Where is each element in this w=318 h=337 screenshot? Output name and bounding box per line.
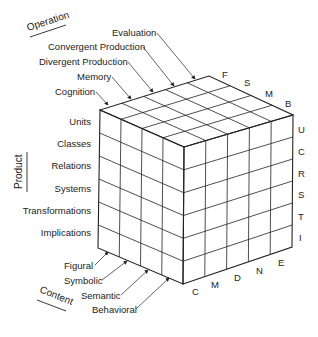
product-label-systems: Systems — [55, 183, 92, 194]
code-i: I — [299, 232, 302, 243]
operation-axis-title: Operation — [25, 9, 70, 33]
arrow-memory — [112, 77, 131, 99]
operation-axis: Operation — [25, 9, 70, 37]
code-r: R — [298, 168, 305, 179]
code-f: F — [222, 69, 228, 80]
content-label-figural: Figural — [64, 260, 93, 271]
code-d-operation: D — [234, 272, 241, 283]
top-edge-codes: F S M B — [222, 69, 291, 109]
content-label-semantic: Semantic — [81, 290, 121, 301]
product-label-units: Units — [69, 116, 91, 127]
arrow-behavioral — [136, 278, 169, 309]
operation-label-evaluation: Evaluation — [112, 27, 156, 38]
code-c-operation: C — [192, 286, 199, 297]
code-e-operation: E — [278, 257, 284, 268]
bottom-edge-codes: C M D N E — [192, 257, 284, 297]
operation-labels: Evaluation Convergent Production Diverge… — [39, 27, 195, 105]
code-t: T — [298, 211, 304, 222]
right-edge-codes: U C R S T I — [298, 124, 305, 243]
product-label-classes: Classes — [57, 138, 91, 149]
operation-label-memory: Memory — [77, 71, 112, 82]
operation-label-convergent-production: Convergent Production — [48, 41, 145, 52]
product-axis-title: Product — [13, 154, 24, 189]
operation-label-cognition: Cognition — [55, 86, 95, 97]
content-label-symbolic: Symbolic — [64, 275, 103, 286]
code-s: S — [244, 77, 250, 88]
arrow-symbolic — [102, 261, 127, 280]
content-axis-title: Content — [38, 284, 75, 307]
left-grid — [98, 119, 184, 275]
soi-cube-diagram: Operation Evaluation Convergent Producti… — [0, 0, 318, 337]
code-m: M — [265, 88, 273, 99]
content-label-behavioral: Behavioral — [92, 304, 137, 315]
product-axis: Product — [13, 152, 27, 192]
cube — [98, 76, 293, 284]
product-label-implications: Implications — [41, 227, 91, 238]
cube-right-face — [183, 115, 293, 284]
code-b: B — [285, 98, 291, 109]
arrow-convergent-production — [143, 47, 174, 86]
arrow-figural — [95, 252, 108, 265]
code-c: C — [298, 146, 305, 157]
product-label-relations: Relations — [51, 160, 91, 171]
code-s-product: S — [298, 189, 304, 200]
arrow-divergent-production — [128, 62, 153, 92]
content-labels: Figural Symbolic Semantic Behavioral — [64, 252, 169, 315]
arrow-semantic — [121, 270, 148, 295]
operation-label-divergent-production: Divergent Production — [39, 56, 128, 67]
product-labels: Units Classes Relations Systems Transfor… — [23, 116, 92, 238]
code-m-operation: M — [211, 279, 219, 290]
code-u: U — [298, 124, 305, 135]
right-grid — [183, 121, 293, 276]
arrow-cognition — [96, 92, 108, 105]
code-n-operation: N — [256, 265, 263, 276]
content-axis: Content — [37, 284, 75, 311]
product-label-transformations: Transformations — [23, 205, 92, 216]
